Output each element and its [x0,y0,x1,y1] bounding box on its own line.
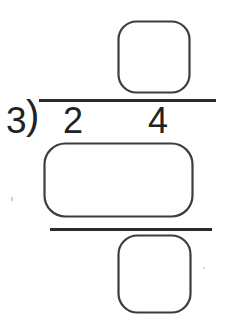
difference-answer-box[interactable] [119,236,191,313]
division-bracket: ) [26,93,39,137]
scan-speck-left [11,197,13,201]
product-answer-box[interactable] [45,144,193,217]
quotient-answer-box[interactable] [119,22,190,93]
worksheet-canvas: 3 ) 2 4 [0,0,226,322]
division-worksheet: 3 ) 2 4 [0,0,226,322]
dividend-tens-digit: 2 [63,100,83,141]
scan-speck-right [203,267,205,269]
dividend-ones-digit: 4 [148,100,168,141]
divisor-digit: 3 [6,100,27,141]
